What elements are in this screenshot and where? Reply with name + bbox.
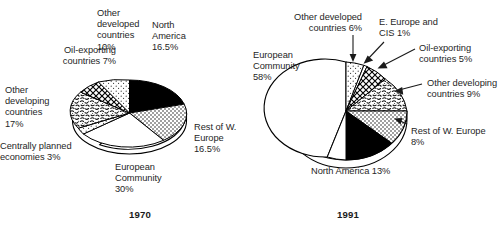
label-1970-oil-exporting: Oil-exporting countries 7% [8, 45, 116, 67]
label-1991-rest-w-europe: Rest of W. Europe 8% [411, 126, 486, 148]
label-1970-european-community: European Community 30% [115, 162, 162, 196]
label-1970-centrally-planned: Centrally planned economies 3% [0, 141, 72, 163]
figure-two-pie-charts: Other developed countries 10% North Amer… [0, 0, 504, 235]
label-1991-european-community: European Community 58% [253, 50, 300, 84]
label-1970-other-developing: Other developing countries 17% [5, 85, 49, 130]
label-1991-other-developing: Other developing countries 9% [427, 78, 497, 100]
label-1970-rest-w-europe: Rest of W. Europe 16.5% [194, 122, 236, 156]
pie-1970-body [70, 80, 187, 148]
label-1970-north-america: North America 16.5% [152, 20, 186, 54]
chart-1970-year-label: 1970 [129, 209, 151, 220]
label-1991-e-europe-cis: E. Europe and CIS 1% [379, 17, 438, 39]
pie-chart-1991-panel: European Community 58% Other developed c… [252, 0, 504, 235]
label-1991-oil-exporting: Oil-exporting countries 5% [419, 43, 472, 65]
pie-chart-1970-panel: Other developed countries 10% North Amer… [0, 0, 252, 235]
chart-1991-year-label: 1991 [337, 209, 359, 220]
label-1991-other-developed: Other developed countries 6% [252, 12, 362, 34]
pie-chart-1991-graphic [252, 0, 504, 235]
label-1991-north-america: North America 13% [311, 166, 390, 177]
